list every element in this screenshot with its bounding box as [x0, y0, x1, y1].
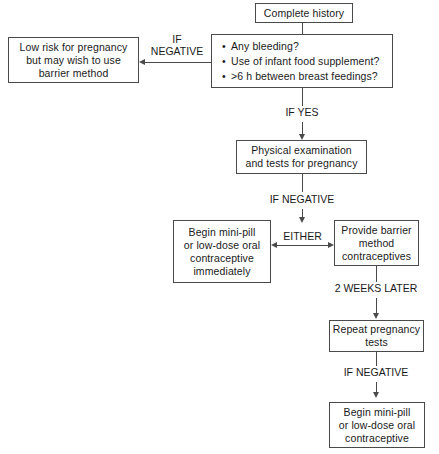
arrowhead-either-left — [271, 242, 277, 248]
node-line: contraceptives — [342, 250, 411, 263]
edge-repeat-to-final-upper — [376, 352, 377, 366]
edge-label-line: NEGATIVE — [151, 45, 203, 57]
edge-label-two-weeks-later: 2 WEEKS LATER — [316, 282, 436, 294]
node-history-questions: Any bleeding? Use of infant food supplem… — [211, 34, 393, 88]
node-line: Provide barrier — [341, 224, 411, 237]
node-low-risk: Low risk for pregnancy but may wish to u… — [8, 37, 139, 83]
edge-label-if-negative-mid: IF NEGATIVE — [252, 193, 352, 205]
edge-physical-exam-to-either-upper — [302, 174, 303, 192]
arrowhead-either-right — [328, 242, 334, 248]
node-begin-minipill-immediate: Begin mini-pill or low-dose oral contrac… — [173, 220, 271, 283]
node-line: Repeat pregnancy — [333, 323, 420, 336]
arrowhead-to-begin-minipill-final — [373, 392, 379, 398]
edge-history-to-questions — [302, 23, 303, 34]
edge-questions-to-low-risk — [145, 62, 211, 63]
edge-label-either: EITHER — [265, 230, 340, 242]
edge-label-if-negative-top: IF NEGATIVE — [144, 33, 210, 57]
edge-either-bidirectional — [277, 245, 328, 246]
node-line: but may wish to use — [26, 54, 121, 67]
edge-label-if-negative-bottom: IF NEGATIVE — [326, 366, 426, 378]
arrowhead-to-low-risk — [139, 59, 145, 65]
node-line: Low risk for pregnancy — [20, 41, 128, 54]
node-line: method — [359, 237, 395, 250]
edge-barrier-to-repeat-upper — [376, 266, 377, 282]
arrowhead-to-repeat-tests — [373, 313, 379, 319]
edge-label-line: IF — [172, 33, 181, 45]
edge-label-if-yes: IF YES — [252, 106, 352, 118]
node-begin-minipill-final: Begin mini-pill or low-dose oral contrac… — [329, 402, 425, 448]
edge-barrier-to-repeat-lower — [376, 298, 377, 314]
node-line: and tests for pregnancy — [245, 157, 357, 170]
node-line: Physical examination — [251, 144, 352, 157]
arrowhead-to-either-junction — [299, 217, 305, 223]
node-line: immediately — [193, 265, 250, 278]
flowchart-canvas: Complete history Any bleeding? Use of in… — [0, 0, 439, 454]
node-line: contraceptive — [345, 432, 409, 445]
node-line: Use of infant food supplement? — [222, 54, 379, 69]
node-line: or low-dose oral — [184, 239, 260, 252]
node-line: Begin mini-pill — [344, 406, 411, 419]
node-complete-history: Complete history — [255, 3, 353, 23]
node-line: or low-dose oral — [339, 419, 415, 432]
node-physical-exam: Physical examination and tests for pregn… — [236, 140, 367, 174]
node-line: >6 h between breast feedings? — [222, 69, 378, 84]
node-repeat-pregnancy-tests: Repeat pregnancy tests — [329, 320, 424, 352]
node-line: barrier method — [39, 67, 109, 80]
node-line: Complete history — [264, 7, 344, 20]
node-line: Begin mini-pill — [189, 226, 256, 239]
node-line: tests — [365, 336, 388, 349]
edge-questions-to-physical-exam-upper — [302, 88, 303, 106]
node-line: contraceptive — [190, 252, 254, 265]
node-line: Any bleeding? — [222, 39, 299, 54]
node-provide-barrier: Provide barrier method contraceptives — [334, 220, 419, 266]
